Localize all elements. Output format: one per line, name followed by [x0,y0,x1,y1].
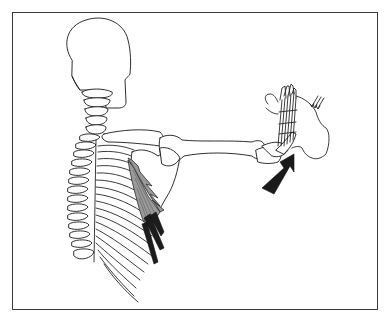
humerus-icon [159,135,266,166]
illustration-canvas [0,0,388,314]
resistance-arrows-icon [310,96,324,109]
anatomy-illustration: Posterior view of skeleton with right ar… [0,0,388,314]
thoracic-spine-icon [68,134,100,262]
clavicle-icon [102,130,164,146]
cervical-spine-icon [82,89,112,134]
